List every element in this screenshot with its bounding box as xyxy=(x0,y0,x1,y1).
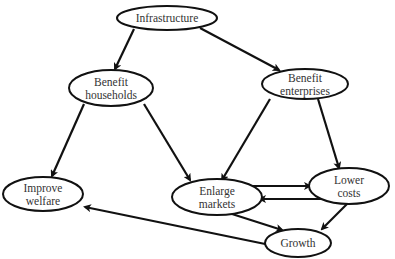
node-growth: Growth xyxy=(265,229,331,257)
node-improve-welfare: Improvewelfare xyxy=(3,177,83,211)
node-label: Growth xyxy=(280,237,315,249)
node-label: Infrastructure xyxy=(136,12,199,24)
node-label: costs xyxy=(338,187,362,199)
arrow-benefit-enterprises-to-lower-costs xyxy=(318,99,339,168)
node-label: welfare xyxy=(26,195,60,207)
node-label: households xyxy=(85,89,137,101)
node-benefit-households: Benefithouseholds xyxy=(69,70,153,106)
arrow-infrastructure-to-benefit-households xyxy=(115,29,134,69)
causal-diagram: InfrastructureBenefithouseholdsBenefiten… xyxy=(0,0,395,259)
node-label: Benefit xyxy=(288,72,323,84)
arrow-benefit-enterprises-to-enlarge-markets xyxy=(222,99,270,180)
node-label: Improve xyxy=(24,182,63,195)
node-infrastructure: Infrastructure xyxy=(117,6,217,30)
node-label: enterprises xyxy=(280,85,330,98)
arrow-lower-costs-to-growth xyxy=(322,203,348,229)
node-enlarge-markets: Enlargemarkets xyxy=(172,179,262,215)
arrow-infrastructure-to-benefit-enterprises xyxy=(200,28,279,70)
node-benefit-enterprises: Benefitenterprises xyxy=(262,69,348,99)
node-label: Enlarge xyxy=(199,185,235,198)
node-lower-costs: Lowercosts xyxy=(309,168,389,204)
node-label: Benefit xyxy=(94,76,129,88)
arrow-benefit-households-to-improve-welfare xyxy=(52,104,84,176)
arrow-enlarge-markets-to-growth xyxy=(232,214,282,230)
node-label: Lower xyxy=(334,174,364,186)
node-label: markets xyxy=(199,198,236,210)
arrow-benefit-households-to-enlarge-markets xyxy=(144,104,190,180)
